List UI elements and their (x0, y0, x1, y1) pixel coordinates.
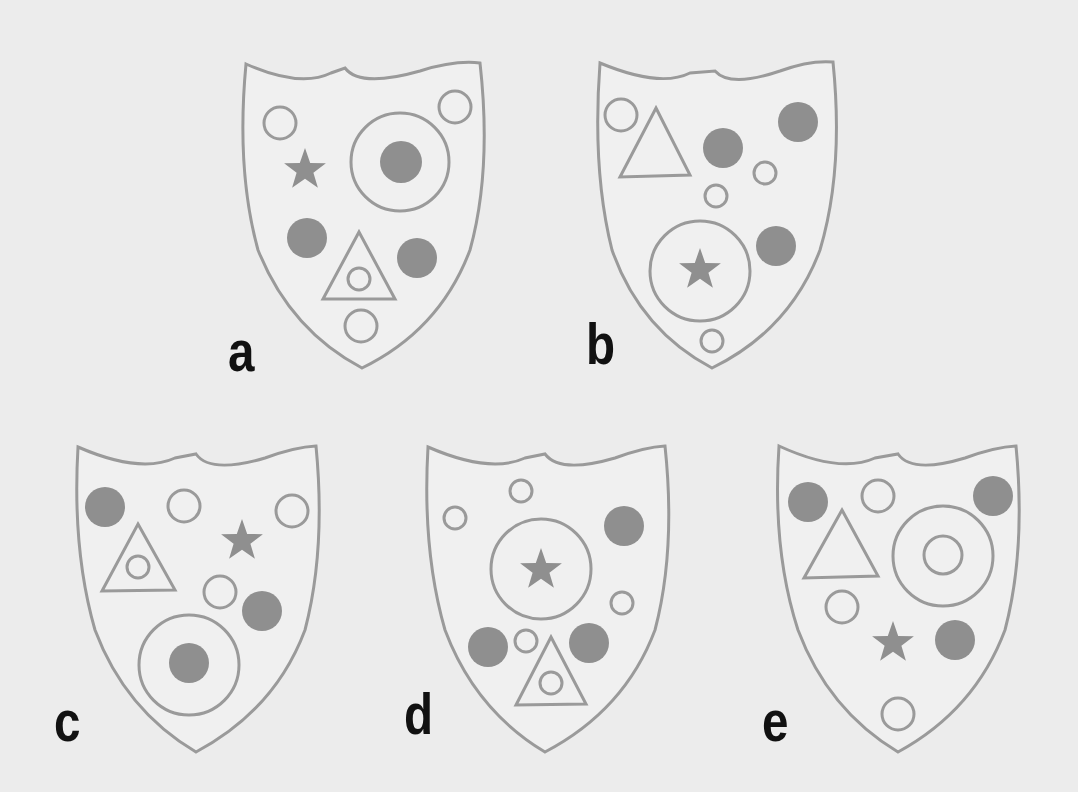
shield-c (77, 446, 319, 752)
shield-label-e: e (762, 692, 788, 750)
filled-circle (242, 591, 282, 631)
filled-circle (604, 506, 644, 546)
filled-circle (169, 643, 209, 683)
filled-circle (397, 238, 437, 278)
shield-a (243, 62, 484, 368)
filled-circle (973, 476, 1013, 516)
shield-d (427, 446, 669, 752)
filled-circle (287, 218, 327, 258)
filled-circle (569, 623, 609, 663)
shield-b (598, 62, 837, 368)
filled-circle (380, 141, 422, 183)
filled-circle (778, 102, 818, 142)
shield-label-b: b (586, 315, 615, 373)
filled-circle (935, 620, 975, 660)
puzzle-canvas (0, 0, 1078, 792)
filled-circle (468, 627, 508, 667)
shield-e (778, 446, 1020, 752)
shield-label-d: d (404, 685, 433, 743)
shield-label-c: c (54, 692, 80, 750)
filled-circle (85, 487, 125, 527)
filled-circle (703, 128, 743, 168)
filled-circle (788, 482, 828, 522)
filled-circle (756, 226, 796, 266)
shield-label-a: a (228, 322, 254, 380)
